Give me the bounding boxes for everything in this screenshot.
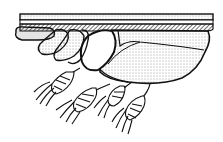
grain-ear-1	[34, 68, 80, 106]
illustration-canvas: Black and white stippled line drawing of…	[0, 0, 223, 142]
gripping-hand	[16, 27, 89, 64]
line-drawing	[0, 0, 223, 142]
